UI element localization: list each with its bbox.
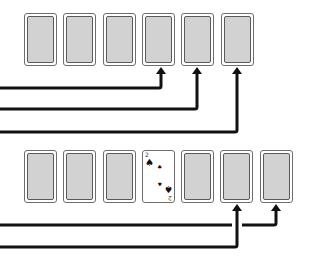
arrow-to-bottom-card-7 xyxy=(0,209,276,225)
arrow-to-top-card-6 xyxy=(0,72,237,132)
arrow-to-top-card-5 xyxy=(0,72,197,109)
arrow-to-bottom-card-6 xyxy=(0,209,237,247)
arrow-to-top-card-4 xyxy=(0,72,161,88)
arrow-connectors xyxy=(0,0,314,268)
